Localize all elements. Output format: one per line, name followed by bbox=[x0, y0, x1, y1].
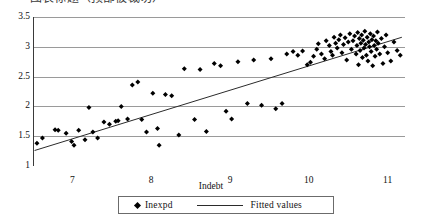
legend-label-inexpd: Inexpd bbox=[145, 200, 173, 210]
legend-item-fitted-values: Fitted values bbox=[197, 200, 302, 210]
legend-item-inexpd: Inexpd bbox=[135, 200, 173, 210]
diamond-marker-icon bbox=[134, 201, 141, 208]
x-axis-title: Indebt bbox=[0, 181, 422, 191]
legend-label-fitted-values: Fitted values bbox=[251, 200, 302, 210]
chart-screenshot: 图表标题（顶部被裁切） 11.522.533.5 7891011 Indebt … bbox=[0, 0, 422, 219]
legend: Inexpd Fitted values bbox=[118, 196, 334, 214]
line-sample-icon bbox=[197, 205, 243, 206]
